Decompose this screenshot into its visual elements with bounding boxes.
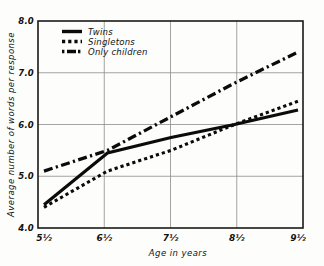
- x-tick-label: 8½: [229, 233, 245, 243]
- y-tick-label: 5.0: [18, 171, 34, 181]
- legend-label-twins: Twins: [88, 27, 113, 37]
- chart-legend: Twins Singletons Only children: [62, 27, 148, 57]
- data-series-group: [44, 52, 298, 207]
- x-tick-label: 7½: [163, 233, 179, 243]
- y-axis-tick-labels: 8.0 7.0 6.0 5.0 4.0: [17, 16, 34, 233]
- x-axis-title: Age in years: [148, 248, 208, 258]
- legend-label-singletons: Singletons: [88, 37, 135, 47]
- series-only-children: [44, 52, 298, 171]
- x-tick-label: 5½: [36, 233, 52, 243]
- y-tick-label: 6.0: [18, 120, 34, 130]
- line-chart: 8.0 7.0 6.0 5.0 4.0 Average number of wo…: [0, 0, 324, 266]
- y-tick-label: 7.0: [18, 68, 34, 78]
- legend-label-only-children: Only children: [88, 47, 148, 57]
- y-tick-label: 8.0: [18, 16, 34, 26]
- y-tick-label: 4.0: [17, 223, 34, 233]
- y-axis-title: Average number of words per response: [6, 32, 16, 218]
- x-tick-label: 9½: [290, 233, 306, 243]
- x-tick-label: 6½: [96, 233, 112, 243]
- chart-figure: 8.0 7.0 6.0 5.0 4.0 Average number of wo…: [0, 0, 324, 266]
- x-axis-tick-labels: 5½ 6½ 7½ 8½ 9½: [36, 233, 306, 243]
